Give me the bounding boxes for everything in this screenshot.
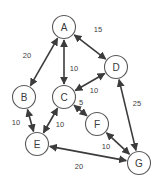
- graph-edge-e-g: [50, 146, 126, 160]
- graph-edge-c-f: [74, 105, 87, 116]
- node-label-c: C: [60, 92, 67, 103]
- graph-diagram: ABCDEFG 2010151051010251020: [0, 0, 162, 189]
- graph-node-a[interactable]: A: [53, 16, 76, 39]
- graph-node-g[interactable]: G: [128, 152, 151, 175]
- edge-weight-a-c: 10: [70, 64, 78, 73]
- edge-weight-f-g: 10: [102, 142, 110, 151]
- graph-edge-a-b: [30, 38, 57, 85]
- graph-canvas: ABCDEFG 2010151051010251020: [0, 0, 162, 189]
- edge-weight-e-g: 20: [75, 162, 83, 171]
- edge-weight-c-e: 10: [56, 120, 64, 129]
- node-label-e: E: [34, 139, 41, 150]
- node-label-g: G: [135, 158, 143, 169]
- edge-weight-d-g: 25: [133, 99, 141, 108]
- edge-weight-a-d: 15: [94, 25, 102, 34]
- graph-node-f[interactable]: F: [86, 113, 109, 136]
- graph-edge-b-e: [27, 110, 33, 132]
- graph-node-e[interactable]: E: [26, 133, 49, 156]
- graph-edge-d-g: [119, 80, 136, 151]
- graph-edge-a-d: [74, 35, 105, 59]
- edge-weight-b-e: 10: [12, 118, 20, 127]
- graph-node-d[interactable]: D: [105, 56, 128, 79]
- edge-weight-c-f: 5: [79, 98, 83, 107]
- nodes-layer: ABCDEFG: [13, 16, 151, 175]
- node-label-a: A: [61, 22, 68, 33]
- graph-node-b[interactable]: B: [13, 86, 36, 109]
- node-label-b: B: [21, 92, 28, 103]
- graph-node-c[interactable]: C: [53, 86, 76, 109]
- node-label-f: F: [94, 119, 100, 130]
- node-label-d: D: [112, 62, 119, 73]
- edge-weight-c-d: 10: [90, 86, 98, 95]
- edge-weight-a-b: 20: [23, 51, 31, 60]
